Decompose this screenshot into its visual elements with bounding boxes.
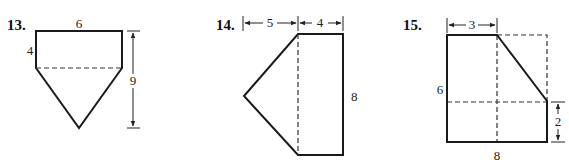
label-left: 4 (27, 43, 34, 58)
label-left-width: 5 (267, 15, 274, 30)
label-right: 2 (555, 114, 562, 129)
figure-13: 13. 6 4 9 (7, 16, 140, 128)
figure-15: 15. 3 6 8 2 (403, 17, 565, 163)
figure-number: 13. (7, 17, 26, 33)
figure-number: 15. (403, 17, 422, 33)
label-height: 9 (130, 73, 137, 88)
figure-14: 14. 5 4 8 (216, 15, 358, 155)
pentagon-shape (244, 34, 343, 155)
label-top: 3 (469, 17, 476, 32)
pentagon-shape (36, 31, 122, 128)
label-bottom: 8 (494, 148, 501, 163)
figure-number: 14. (216, 17, 235, 33)
label-right-width: 4 (317, 15, 324, 30)
figures-canvas: 13. 6 4 9 14. 5 4 8 15. 3 (0, 0, 569, 168)
label-height: 8 (351, 89, 358, 104)
label-left: 6 (437, 82, 444, 97)
label-top: 6 (76, 16, 83, 31)
